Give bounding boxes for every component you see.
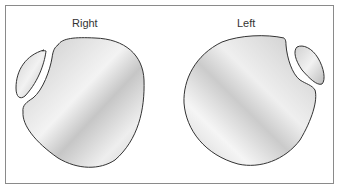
left-blind-spot-island (295, 46, 324, 84)
visual-field-shapes (0, 0, 341, 193)
